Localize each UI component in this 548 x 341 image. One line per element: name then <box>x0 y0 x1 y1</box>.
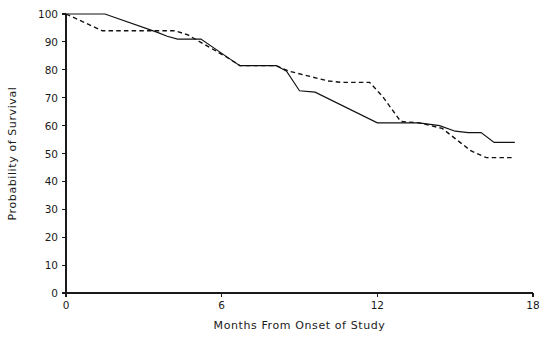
x-tick-label: 18 <box>526 299 539 311</box>
y-tick-label: 20 <box>45 231 58 243</box>
y-tick-label: 30 <box>45 203 58 215</box>
survival-curve-chart: 0102030405060708090100061218Months From … <box>0 0 548 341</box>
x-tick-label: 6 <box>218 299 225 311</box>
y-tick-label: 80 <box>45 64 58 76</box>
y-tick-label: 50 <box>45 148 58 160</box>
series-line-dashed-curve <box>66 14 515 158</box>
y-axis-title: Probability of Survival <box>6 87 19 221</box>
series-line-solid-curve <box>66 14 515 142</box>
x-tick-label: 0 <box>63 299 70 311</box>
x-axis-title: Months From Onset of Study <box>214 319 386 332</box>
y-tick-label: 100 <box>38 8 58 20</box>
y-tick-label: 60 <box>45 120 58 132</box>
y-tick-label: 40 <box>45 175 58 187</box>
y-tick-label: 10 <box>45 259 58 271</box>
y-tick-label: 90 <box>45 36 58 48</box>
x-tick-label: 12 <box>371 299 384 311</box>
y-tick-label: 70 <box>45 92 58 104</box>
y-tick-label: 0 <box>51 287 58 299</box>
